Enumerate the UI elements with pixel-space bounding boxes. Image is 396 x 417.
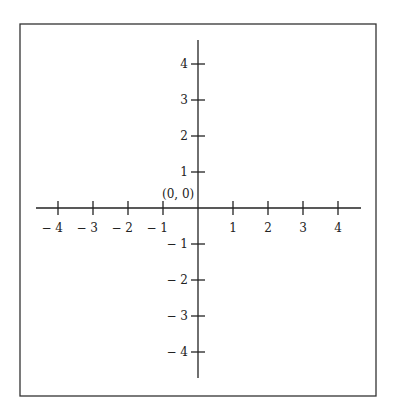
y-tick-label: 4 (180, 57, 188, 71)
x-axis-ticks: − 4− 3− 2− 11234 (41, 201, 342, 235)
x-tick-label: 4 (334, 221, 342, 235)
y-tick-label: 1 (180, 165, 188, 179)
y-tick-label: − 2 (166, 273, 188, 287)
x-tick-label: − 1 (146, 221, 168, 235)
x-tick-label: 1 (229, 221, 237, 235)
y-tick-label: − 1 (166, 237, 188, 251)
x-tick-label: 3 (299, 221, 307, 235)
x-tick-label: 2 (264, 221, 272, 235)
y-tick-label: − 4 (166, 345, 188, 359)
y-tick-label: − 3 (166, 309, 188, 323)
y-tick-label: 2 (180, 129, 188, 143)
coordinate-plane: − 4− 3− 2− 11234 4321− 1− 2− 3− 4 (0, 0) (0, 0, 396, 417)
x-tick-label: − 2 (111, 221, 133, 235)
origin-label: (0, 0) (162, 187, 194, 201)
x-tick-label: − 3 (76, 221, 98, 235)
x-tick-label: − 4 (41, 221, 63, 235)
y-tick-label: 3 (180, 93, 188, 107)
